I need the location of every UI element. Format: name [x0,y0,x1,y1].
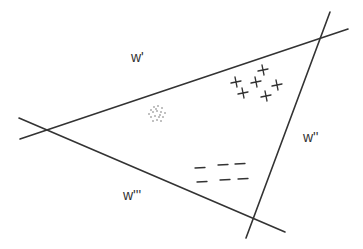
dot-marker [155,108,156,109]
dot-marker [150,116,151,117]
minus-marker [197,182,207,183]
separating-lines [19,12,348,238]
triangle-diagram: w' w'' w''' [0,0,363,249]
minus-marker [195,168,205,169]
minus-class-points [195,164,248,183]
plus-marker [272,80,282,90]
dot-marker [158,116,159,117]
plus-marker [258,65,268,75]
dot-marker [156,119,157,120]
dot-marker [164,112,165,113]
minus-marker [220,180,230,181]
dot-marker [161,107,162,108]
plus-class-points [231,65,282,101]
dot-marker [159,114,160,115]
dot-marker [160,120,161,121]
label-w-prime: w' [130,49,144,65]
plus-marker [231,77,241,87]
line-w1 [20,29,348,139]
plus-marker [251,77,261,87]
dot-marker [150,109,151,110]
dot-marker [154,115,155,116]
dot-marker [152,111,153,112]
dot-marker [153,106,154,107]
minus-marker [218,165,228,166]
line-w2 [246,12,330,238]
minus-marker [238,179,248,180]
dot-marker [156,110,157,111]
dot-marker [162,116,163,117]
dot-marker [152,120,153,121]
dot-marker [157,105,158,106]
minus-marker [235,164,245,165]
plus-marker [261,91,271,101]
dot-marker [148,113,149,114]
dot-class-cluster [148,105,165,121]
label-w-double-prime: w'' [302,129,318,145]
dot-marker [160,111,161,112]
line-w3 [19,118,285,232]
plus-marker [238,88,248,98]
label-w-triple-prime: w''' [122,187,141,203]
